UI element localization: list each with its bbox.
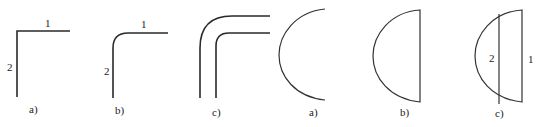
label-1: 1 (528, 53, 534, 65)
diagram-canvas: 1 2 a) 1 2 b) c) a) b) 2 1 c) (0, 0, 538, 127)
caption-a: a) (309, 106, 318, 119)
label-2: 2 (104, 65, 110, 77)
semicircle-arc (279, 9, 325, 100)
panel-left-c: c) (200, 16, 270, 119)
rounded-corner-line (113, 33, 168, 98)
caption-b: b) (400, 106, 410, 119)
panel-right-b: b) (373, 10, 420, 119)
inner-rounded-line (216, 33, 270, 98)
caption-b: b) (115, 104, 125, 117)
outer-rounded-line (200, 16, 270, 98)
panel-right-c: 2 1 c) (475, 10, 534, 120)
label-2: 2 (7, 61, 13, 73)
sharp-corner-line (17, 31, 70, 97)
label-1: 1 (141, 18, 147, 30)
panel-right-a: a) (279, 9, 325, 119)
caption-c: c) (495, 107, 504, 120)
panel-left-a: 1 2 a) (7, 17, 70, 116)
caption-c: c) (212, 106, 221, 119)
label-2: 2 (489, 52, 495, 64)
half-disc-outline (373, 10, 420, 102)
caption-a: a) (29, 103, 38, 116)
label-1: 1 (45, 17, 51, 29)
panel-left-b: 1 2 b) (104, 18, 168, 117)
